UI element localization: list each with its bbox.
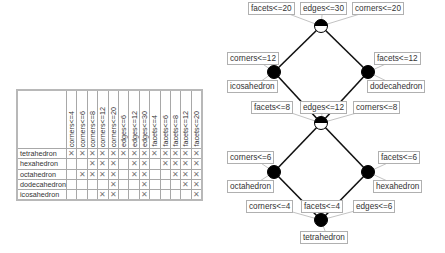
lattice-edge (321, 26, 368, 72)
lattice-node-dodeca (362, 66, 375, 79)
lattice-label: octahedron (227, 180, 274, 193)
lattice-label: corners<=8 (353, 101, 400, 114)
lattice-label: tetrahedron (300, 231, 348, 244)
lattice-node-bottom (315, 214, 328, 227)
lattice-label: facets<=6 (378, 151, 420, 164)
lattice-node-icosa (268, 66, 281, 79)
lattice-label: dodecahedron (367, 80, 425, 93)
lattice-label: corners<=6 (227, 151, 274, 164)
lattice-node-top (315, 20, 328, 33)
lattice-label: corners<=4 (246, 200, 293, 213)
lattice-label: edges<=30 (300, 2, 347, 15)
lattice-label: icosahedron (227, 80, 278, 93)
lattice-label: facets<=8 (251, 101, 293, 114)
concept-lattice-diagram (0, 0, 445, 253)
lattice-label: corners<=12 (227, 52, 279, 65)
lattice-label: facets<=20 (248, 2, 295, 15)
lattice-label: edges<=6 (353, 200, 395, 213)
lattice-edge (321, 123, 368, 172)
lattice-label: facets<=12 (374, 52, 421, 65)
lattice-edge (321, 72, 368, 123)
lattice-label: corners<=20 (352, 2, 404, 15)
lattice-node-octa (268, 166, 281, 179)
lattice-edge (274, 26, 321, 72)
lattice-node-hexa (362, 166, 375, 179)
lattice-label: hexahedron (373, 180, 422, 193)
lattice-label: facets<=4 (301, 200, 343, 213)
lattice-label: edges<=12 (300, 101, 347, 114)
lattice-edge (274, 123, 321, 172)
lattice-node-mid (315, 117, 328, 130)
